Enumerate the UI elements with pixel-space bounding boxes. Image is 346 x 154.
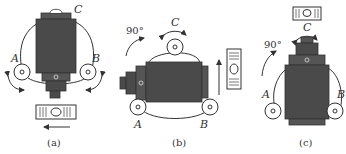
foot-screw-b — [327, 103, 343, 119]
telescope-cap — [289, 119, 325, 125]
panel-c: C 90° A B (c) — [229, 7, 345, 148]
rotate-arrow-c-icon — [164, 31, 186, 35]
label-c: C — [74, 3, 83, 16]
telescope-knob — [50, 9, 62, 13]
label-b: B — [336, 88, 345, 101]
foot-screw-c — [167, 39, 183, 55]
telescope-body — [285, 65, 329, 119]
telescope-body — [146, 62, 202, 102]
eyepiece-tip — [50, 91, 60, 98]
foot-screw-a — [265, 103, 281, 119]
telescope-cap — [41, 13, 71, 19]
diagram-canvas: A B C (a) 90° C A B — [0, 0, 346, 154]
eyepiece — [296, 43, 318, 55]
eyepiece-ring — [42, 73, 70, 81]
caption-b: (b) — [172, 137, 186, 148]
telescope-cap — [202, 66, 208, 98]
panel-a: A B C (a) — [8, 3, 102, 148]
caption-c: (c) — [299, 137, 313, 148]
label-b: B — [199, 118, 208, 131]
bubble-vial-horizontal — [293, 7, 321, 20]
foot-screw-a — [130, 99, 146, 115]
label-b: B — [91, 52, 100, 65]
frame-bottom-arc — [140, 108, 210, 119]
label-c: C — [303, 21, 312, 34]
bubble-vial-vertical — [227, 49, 241, 89]
rotation-arc-90-icon — [262, 51, 276, 76]
rotation-label: 90° — [126, 25, 144, 36]
rotation-label: 90° — [264, 39, 282, 50]
label-c: C — [171, 16, 180, 29]
label-a: A — [133, 118, 142, 131]
telescope-body — [36, 19, 76, 73]
telescope-tip — [301, 37, 313, 43]
eyepiece-ring — [136, 66, 146, 100]
label-a: A — [261, 88, 270, 101]
bubble-vial-horizontal — [36, 105, 76, 119]
eyepiece-tip — [120, 77, 126, 89]
label-a: A — [10, 52, 19, 65]
eyepiece-ring — [289, 55, 325, 65]
eyepiece — [126, 72, 136, 94]
foot-screw-a — [14, 64, 30, 80]
caption-a: (a) — [47, 137, 61, 148]
panel-b: 90° C A B — [120, 16, 241, 148]
eyepiece — [46, 81, 66, 91]
rotation-arc-90-icon — [126, 38, 144, 56]
foot-screw-b — [80, 64, 96, 80]
foot-screw-b — [202, 99, 218, 115]
